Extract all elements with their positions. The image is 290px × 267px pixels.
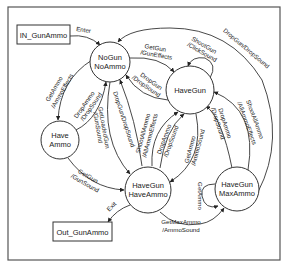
terminal-out-label: Out_GunAmmo (56, 228, 108, 237)
state-havegun-maxammo: HaveGun MaxAmmo (215, 167, 259, 211)
label-getammo-3: GetAmmo (197, 182, 204, 210)
state-havegun-haveammo-line1: HaveGun (132, 181, 164, 190)
state-diagram: Enter GetGun /GunEffects ShootGun /Click… (0, 0, 290, 267)
state-havegun-line1: HaveGun (174, 86, 206, 95)
state-nogun-noammo: NoGun NoAmmo (90, 42, 130, 82)
terminal-in: IN_GunAmmo (17, 25, 70, 44)
state-havegun: HaveGun (166, 66, 214, 114)
state-haveammo: Have Ammo (41, 121, 79, 159)
terminal-in-label: IN_GunAmmo (20, 31, 68, 40)
state-havegun-haveammo-line2: HaveAmmo (128, 190, 167, 199)
terminal-out: Out_GunAmmo (53, 222, 112, 241)
state-haveammo-line1: Have (51, 131, 69, 140)
label-getmaxammo-b: /AmmoSound (162, 226, 200, 233)
state-havegun-haveammo: HaveGun HaveAmmo (125, 167, 171, 213)
state-havegun-maxammo-line2: MaxAmmo (219, 189, 255, 198)
state-havegun-maxammo-line1: HaveGun (221, 180, 253, 189)
state-haveammo-line2: Ammo (49, 140, 71, 149)
state-nogun-noammo-line2: NoAmmo (94, 62, 125, 71)
state-nogun-noammo-line1: NoGun (98, 53, 122, 62)
label-getmaxammo: GetMaxAmmo (161, 218, 201, 225)
